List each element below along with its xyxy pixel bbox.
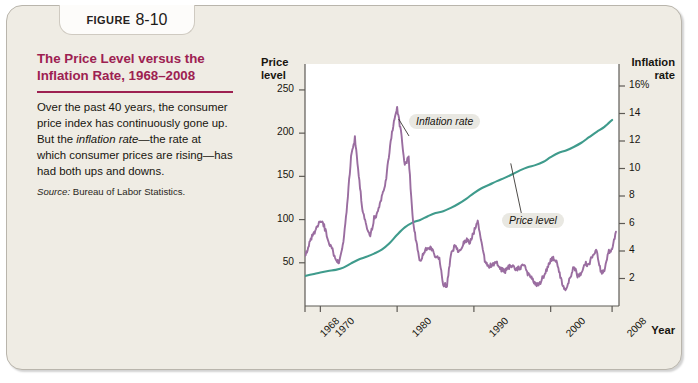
description-emphasis: inflation rate: [76, 133, 138, 145]
figure-source: Source: Bureau of Labor Statistics.: [37, 186, 233, 197]
chart-area: Price level Inflation rate Year 50100150…: [257, 44, 677, 354]
figure-label: Figure: [87, 14, 131, 26]
y-tick-label: 150: [254, 169, 294, 180]
y2-tick-label: 10: [629, 162, 640, 173]
figure-panel: Figure 8-10 The Price Level versus the I…: [6, 5, 682, 370]
y2-tick-label: 14: [629, 107, 640, 118]
y2-tick-label: 4: [629, 244, 635, 255]
y-tick-label: 200: [254, 126, 294, 137]
callout-inflation-rate: Inflation rate: [409, 114, 480, 129]
y2-tick-label: 6: [629, 217, 635, 228]
y2-tick-label: 16%: [629, 79, 649, 90]
y2-tick-label: 2: [629, 272, 635, 283]
y-tick-label: 100: [254, 213, 294, 224]
figure-number: 8-10: [135, 11, 167, 29]
figure-title: The Price Level versus the Inflation Rat…: [37, 50, 233, 84]
source-label: Source:: [37, 186, 70, 197]
y-tick-label: 50: [254, 256, 294, 267]
figure-number-tab: Figure 8-10: [59, 5, 195, 35]
title-divider: [37, 91, 233, 93]
callout-price-level: Price level: [502, 213, 564, 228]
plot-canvas: [257, 44, 677, 354]
source-value: Bureau of Labor Statistics.: [70, 186, 185, 197]
caption-column: The Price Level versus the Inflation Rat…: [37, 50, 233, 197]
y2-tick-label: 12: [629, 134, 640, 145]
y-tick-label: 250: [254, 83, 294, 94]
y2-tick-label: 8: [629, 189, 635, 200]
figure-description: Over the past 40 years, the consumer pri…: [37, 100, 233, 180]
